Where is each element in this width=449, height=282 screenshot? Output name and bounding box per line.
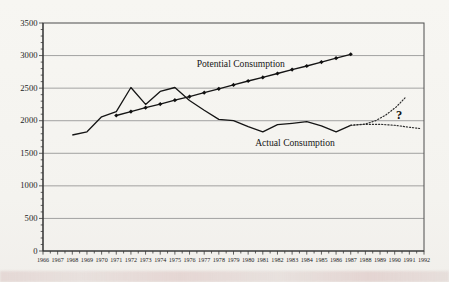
series-1-line xyxy=(72,88,350,136)
y-tick-label: 2000 xyxy=(20,115,37,125)
x-tick-label: 1985 xyxy=(315,257,327,263)
x-axis: 1966196719681969197019711972197319741975… xyxy=(37,251,430,263)
y-tick-label: 3500 xyxy=(20,18,37,28)
data-point-marker xyxy=(261,75,265,79)
data-point-marker xyxy=(158,102,162,106)
potential-consumption-label: Potential Consumption xyxy=(197,58,285,69)
data-point-marker xyxy=(290,67,294,71)
data-point-marker xyxy=(319,60,323,64)
y-axis: 0500100015002000250030003500 xyxy=(20,18,43,256)
x-tick-label: 1966 xyxy=(37,257,49,263)
data-point-marker xyxy=(334,56,338,60)
x-tick-label: 1967 xyxy=(52,257,64,263)
x-tick-label: 1971 xyxy=(110,257,122,263)
x-tick-label: 1988 xyxy=(359,257,371,263)
question-mark-annotation: ? xyxy=(396,108,402,122)
data-point-marker xyxy=(275,71,279,75)
y-tick-label: 2500 xyxy=(20,83,37,93)
data-point-marker xyxy=(187,95,191,99)
scanned-chart-page: 0500100015002000250030003500 19661967196… xyxy=(0,0,449,282)
y-tick-label: 500 xyxy=(25,213,38,223)
scan-artifact-smudge xyxy=(0,271,449,282)
x-tick-label: 1990 xyxy=(389,257,401,263)
y-tick-label: 3000 xyxy=(20,50,37,60)
x-tick-label: 1972 xyxy=(125,257,137,263)
y-tick-label: 1500 xyxy=(20,148,37,158)
y-tick-label: 1000 xyxy=(20,180,37,190)
x-tick-label: 1984 xyxy=(301,257,313,263)
x-tick-label: 1992 xyxy=(418,257,430,263)
x-tick-label: 1976 xyxy=(183,257,195,263)
data-point-marker xyxy=(305,64,309,68)
x-tick-label: 1991 xyxy=(403,257,415,263)
consumption-chart: 0500100015002000250030003500 19661967196… xyxy=(0,0,449,282)
x-tick-label: 1979 xyxy=(227,257,239,263)
x-tick-label: 1968 xyxy=(66,257,78,263)
data-point-marker xyxy=(246,79,250,83)
x-tick-label: 1970 xyxy=(96,257,108,263)
x-tick-label: 1981 xyxy=(257,257,269,263)
x-tick-label: 1989 xyxy=(374,257,386,263)
x-tick-label: 1974 xyxy=(154,257,166,263)
x-tick-label: 1980 xyxy=(242,257,254,263)
x-tick-label: 1975 xyxy=(169,257,181,263)
data-point-marker xyxy=(114,113,118,117)
x-tick-label: 1978 xyxy=(213,257,225,263)
x-tick-label: 1986 xyxy=(330,257,342,263)
x-tick-label: 1983 xyxy=(286,257,298,263)
actual-consumption-label: Actual Consumption xyxy=(255,137,335,148)
x-tick-label: 1977 xyxy=(198,257,210,263)
x-tick-label: 1969 xyxy=(81,257,93,263)
data-point-marker xyxy=(231,83,235,87)
x-tick-label: 1973 xyxy=(139,257,151,263)
plot-frame xyxy=(43,23,424,251)
series-3-line xyxy=(351,124,420,128)
x-tick-label: 1982 xyxy=(271,257,283,263)
gridlines xyxy=(43,56,424,219)
data-point-marker xyxy=(129,109,133,113)
plot-border xyxy=(43,23,424,251)
y-tick-label: 0 xyxy=(33,246,37,256)
data-point-marker xyxy=(173,98,177,102)
data-point-marker xyxy=(202,91,206,95)
data-point-marker xyxy=(143,106,147,110)
data-point-marker xyxy=(217,87,221,91)
x-tick-label: 1987 xyxy=(345,257,357,263)
